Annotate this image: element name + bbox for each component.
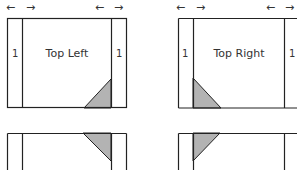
panel-title: Top Left (45, 47, 89, 60)
arrow-left-icon: ← (266, 1, 275, 14)
bottom-left-panel (8, 133, 127, 170)
arrow-left-icon: ← (95, 1, 104, 14)
panel-title: Top Right (212, 47, 265, 60)
corner-triangle (193, 78, 221, 108)
arrow-left-icon: ← (176, 1, 185, 14)
right-strip-label: 1 (116, 48, 122, 59)
corner-triangle (83, 133, 111, 161)
corner-triangle (193, 133, 220, 161)
left-strip-label: 1 (12, 48, 18, 59)
arrow-right-icon: → (285, 1, 294, 14)
corner-triangle (84, 79, 111, 108)
bottom-right-panel (179, 133, 298, 170)
top-left-panel: ← → ← → 1 1 Top Left (6, 1, 127, 108)
arrow-right-icon: → (26, 1, 35, 14)
quilt-diagram: ← → ← → 1 1 Top Left ← → ← → 1 1 Top Rig… (0, 0, 297, 170)
top-right-panel: ← → ← → 1 1 Top Right (176, 1, 297, 108)
arrow-left-icon: ← (6, 1, 15, 14)
left-strip-label: 1 (182, 48, 188, 59)
arrow-right-icon: → (114, 1, 123, 14)
right-strip-label: 1 (289, 48, 295, 59)
arrow-right-icon: → (196, 1, 205, 14)
